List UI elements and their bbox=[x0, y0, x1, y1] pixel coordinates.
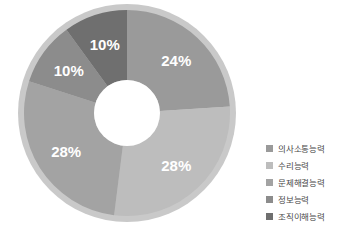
legend-item-label: 의사소통능력 bbox=[278, 142, 325, 154]
legend-item[interactable]: 조직이해능력 bbox=[266, 209, 341, 223]
legend-swatch-icon bbox=[266, 145, 273, 152]
legend-swatch-icon bbox=[266, 162, 273, 169]
donut-slice-value-label: 28% bbox=[161, 157, 191, 174]
legend-swatch-icon bbox=[266, 213, 273, 220]
donut-chart: 24%28%28%10%10% bbox=[0, 0, 256, 230]
legend-item-label: 문제해결능력 bbox=[278, 176, 325, 188]
legend-item[interactable]: 문제해결능력 bbox=[266, 175, 341, 189]
donut-slice-value-label: 10% bbox=[54, 62, 84, 79]
donut-center-hole bbox=[94, 80, 160, 146]
donut-slice-value-label: 28% bbox=[51, 143, 81, 160]
legend-item-label: 정보능력 bbox=[278, 193, 309, 205]
donut-slice-value-label: 24% bbox=[161, 52, 191, 69]
chart-legend: 의사소통능력수리능력문제해결능력정보능력조직이해능력 bbox=[266, 141, 341, 223]
legend-item-label: 수리능력 bbox=[278, 159, 309, 171]
legend-item[interactable]: 의사소통능력 bbox=[266, 141, 341, 155]
donut-chart-svg: 24%28%28%10%10% bbox=[0, 0, 256, 230]
legend-swatch-icon bbox=[266, 196, 273, 203]
legend-swatch-icon bbox=[266, 179, 273, 186]
legend-item-label: 조직이해능력 bbox=[278, 210, 325, 222]
donut-slice-value-label: 10% bbox=[90, 36, 120, 53]
legend-item[interactable]: 수리능력 bbox=[266, 158, 341, 172]
legend-item[interactable]: 정보능력 bbox=[266, 192, 341, 206]
